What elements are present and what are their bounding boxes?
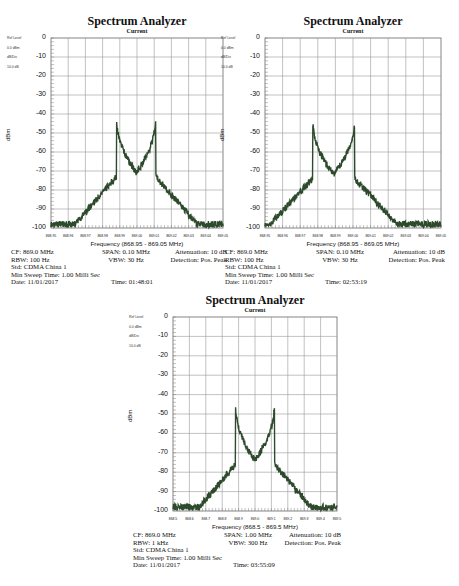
y-tick-label: -10 [242, 52, 260, 59]
y-tick-label: -10 [150, 331, 168, 338]
info-rbw: RBW: 1 kHz [133, 539, 168, 547]
spectrum-panel-2: Spectrum AnalyzerCurrentRef Level0.0 dBm… [230, 0, 459, 300]
y-tick-label: -80 [150, 467, 168, 474]
info-cf: CF: 869.0 MHz [225, 248, 268, 256]
y-tick-label: -90 [28, 204, 46, 211]
plot-area [265, 38, 441, 228]
y-tick-label: -50 [150, 409, 168, 416]
info-std: Std: CDMA China 1 [133, 546, 189, 554]
info-time: Time: 03:55:09 [233, 561, 275, 569]
info-attenuation: Attenuation: 10 dB [175, 248, 227, 256]
info-cf: CF: 869.0 MHz [11, 248, 54, 256]
y-tick-label: -80 [28, 185, 46, 192]
info-std: Std: CDMA China 1 [225, 263, 281, 271]
y-tick-label: -70 [150, 448, 168, 455]
info-rbw: RBW: 100 Hz [11, 256, 50, 264]
ref-level-label: dB/Div [129, 332, 139, 340]
y-tick-label: -30 [28, 90, 46, 97]
ref-level-label: 10.0 dB [129, 342, 141, 350]
ref-level-label: 10.0 dB [7, 63, 19, 71]
x-axis-label: Frequency (868.95 - 869.05 MHz) [51, 240, 223, 247]
info-detection: Detection: Pos. Peak [171, 256, 227, 264]
ref-level-label: 10.0 dB [221, 63, 233, 71]
info-sweep: Min Sweep Time: 1.00 Milli Sec [11, 271, 100, 279]
x-tick-label: 869.05 [431, 234, 451, 238]
chart-subtitle: Current [51, 28, 223, 34]
y-tick-label: -100 [28, 223, 46, 230]
chart-subtitle: Current [173, 307, 337, 313]
y-tick-label: -90 [150, 487, 168, 494]
info-attenuation: Attenuation: 10 dB [289, 531, 341, 539]
y-tick-label: 0 [242, 33, 260, 40]
y-axis-label: dBm [219, 129, 225, 141]
spectrum-panel-1: Spectrum AnalyzerCurrentRef Level0.0 dBm… [0, 0, 230, 300]
info-rbw: RBW: 100 Hz [225, 256, 264, 264]
chart-subtitle: Current [265, 28, 441, 34]
y-tick-label: -40 [242, 109, 260, 116]
spectrum-panel-3: Spectrum AnalyzerCurrentRef Level0.0 dBm… [130, 278, 360, 578]
y-tick-label: -80 [242, 185, 260, 192]
y-tick-label: -70 [28, 166, 46, 173]
info-span: SPAN: 0.10 MHz [305, 248, 375, 256]
ref-level-label: 0.0 dBm [129, 323, 142, 331]
y-tick-label: -50 [242, 128, 260, 135]
y-tick-label: -60 [150, 428, 168, 435]
y-tick-label: -10 [28, 52, 46, 59]
chart-title: Spectrum Analyzer [173, 293, 337, 308]
y-tick-label: -40 [150, 390, 168, 397]
y-tick-label: 0 [150, 312, 168, 319]
ref-level-label: dB/Div [221, 53, 231, 61]
y-tick-label: -100 [150, 506, 168, 513]
ref-level-label: 0.0 dBm [7, 44, 20, 52]
y-tick-label: 0 [28, 33, 46, 40]
y-tick-label: -40 [28, 109, 46, 116]
ref-level-label: Ref Level [129, 313, 143, 321]
ref-level-label: 0.0 dBm [221, 44, 234, 52]
y-axis-label: dBm [127, 410, 133, 422]
y-tick-label: -60 [28, 147, 46, 154]
info-span: SPAN: 1.00 MHz [213, 531, 283, 539]
plot-area [51, 38, 223, 228]
ref-level-label: dB/Div [7, 53, 17, 61]
info-date: Date: 11/01/2017 [11, 278, 58, 286]
y-tick-label: -30 [150, 370, 168, 377]
info-date: Date: 11/01/2017 [133, 561, 180, 569]
x-axis-label: Frequency (868.5 - 869.5 MHz) [173, 523, 337, 530]
info-std: Std: CDMA China 1 [11, 263, 67, 271]
info-sweep: Min Sweep Time: 1.00 Milli Sec [133, 554, 222, 562]
x-axis-label: Frequency (868.95 - 869.05 MHz) [265, 240, 441, 247]
y-tick-label: -20 [28, 71, 46, 78]
y-axis-label: dBm [5, 129, 11, 141]
info-span: SPAN: 0.10 MHz [91, 248, 161, 256]
ref-level-label: Ref Level [221, 34, 235, 42]
info-cf: CF: 869.0 MHz [133, 531, 176, 539]
chart-title: Spectrum Analyzer [51, 14, 223, 29]
y-tick-label: -30 [242, 90, 260, 97]
y-tick-label: -20 [242, 71, 260, 78]
info-detection: Detection: Pos. Peak [285, 539, 341, 547]
ref-level-label: Ref Level [7, 34, 21, 42]
info-vbw: VBW: 300 Hz [213, 539, 283, 547]
x-tick-label: 869.5 [327, 517, 347, 521]
y-tick-label: -50 [28, 128, 46, 135]
chart-title: Spectrum Analyzer [265, 14, 441, 29]
y-tick-label: -60 [242, 147, 260, 154]
info-detection: Detection: Pos. Peak [389, 256, 445, 264]
info-vbw: VBW: 30 Hz [305, 256, 375, 264]
y-tick-label: -70 [242, 166, 260, 173]
y-tick-label: -90 [242, 204, 260, 211]
plot-area [173, 317, 337, 511]
info-vbw: VBW: 30 Hz [91, 256, 161, 264]
y-tick-label: -100 [242, 223, 260, 230]
y-tick-label: -20 [150, 351, 168, 358]
info-attenuation: Attenuation: 10 dB [393, 248, 445, 256]
